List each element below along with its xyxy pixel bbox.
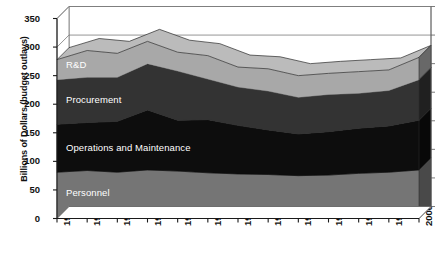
floor-strip — [57, 207, 431, 219]
stacked-area-plot — [0, 0, 441, 267]
chart-figure: Billions of Dollars (budget outlays) 050… — [0, 0, 441, 267]
